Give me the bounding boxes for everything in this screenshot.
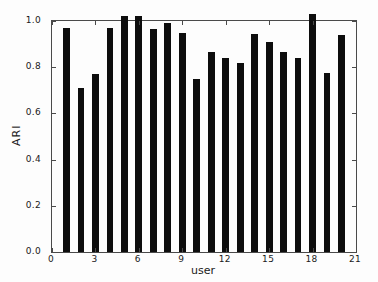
- y-tick-label: 0.6: [26, 107, 41, 117]
- x-tick-mark: [356, 21, 357, 25]
- plot-area: [51, 20, 357, 253]
- x-tick-mark: [356, 248, 357, 252]
- y-tick-label: 0.0: [26, 246, 41, 256]
- x-tick-label: 21: [349, 254, 361, 264]
- ari-bar-chart-figure: 0.00.20.40.60.81.0 036912151821 ARI user: [0, 0, 378, 282]
- y-tick-mark: [52, 67, 56, 68]
- x-tick-label: 15: [262, 254, 274, 264]
- y-tick-mark: [352, 113, 356, 114]
- x-tick-label: 18: [306, 254, 318, 264]
- x-tick-label: 3: [91, 254, 97, 264]
- y-axis-label: ARI: [9, 20, 23, 251]
- x-tick-mark: [269, 248, 270, 252]
- y-tick-mark: [352, 252, 356, 253]
- x-axis-label: user: [51, 264, 355, 277]
- x-tick-label: 9: [178, 254, 184, 264]
- y-tick-mark: [352, 67, 356, 68]
- x-tick-mark: [226, 248, 227, 252]
- x-tick-label: 6: [135, 254, 141, 264]
- y-tick-mark: [352, 206, 356, 207]
- y-tick-label: 1.0: [26, 15, 41, 25]
- y-tick-mark: [352, 160, 356, 161]
- y-tick-label: 0.2: [26, 200, 41, 210]
- y-tick-mark: [52, 113, 56, 114]
- x-tick-mark: [182, 21, 183, 25]
- y-tick-mark: [52, 252, 56, 253]
- x-tick-label: 12: [219, 254, 231, 264]
- y-tick-mark: [52, 21, 56, 22]
- y-tick-mark: [352, 21, 356, 22]
- y-tick-label: 0.8: [26, 61, 41, 71]
- x-tick-mark: [226, 21, 227, 25]
- x-tick-mark: [139, 21, 140, 25]
- x-tick-label: 0: [48, 254, 54, 264]
- y-tick-mark: [52, 206, 56, 207]
- x-tick-mark: [269, 21, 270, 25]
- x-tick-mark: [95, 248, 96, 252]
- y-tick-mark: [52, 160, 56, 161]
- y-tick-label: 0.4: [26, 154, 41, 164]
- x-tick-mark: [139, 248, 140, 252]
- x-tick-mark: [313, 21, 314, 25]
- x-tick-mark: [95, 21, 96, 25]
- x-tick-mark: [182, 248, 183, 252]
- ticks-container: [52, 21, 356, 252]
- y-axis-tick-labels: 0.00.20.40.60.81.0: [0, 20, 46, 251]
- x-tick-mark: [313, 248, 314, 252]
